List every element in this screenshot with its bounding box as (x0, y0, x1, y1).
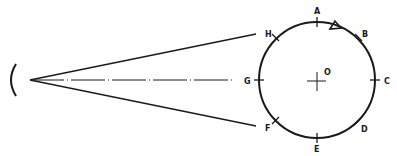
point-label-a: A (314, 7, 321, 16)
point-label-e: E (314, 145, 319, 154)
point-label-c: C (384, 77, 390, 86)
point-label-d: D (361, 125, 368, 134)
center-label: O (324, 68, 331, 77)
point-label-f: F (265, 124, 270, 133)
diagram-canvas: O A B C D E F G H (0, 0, 397, 156)
point-label-b: B (362, 30, 368, 39)
ray-to-f (30, 80, 256, 126)
bracket-arc (11, 64, 16, 96)
point-label-g: G (244, 77, 251, 86)
point-label-h: H (265, 30, 272, 39)
ray-to-h (30, 34, 256, 80)
